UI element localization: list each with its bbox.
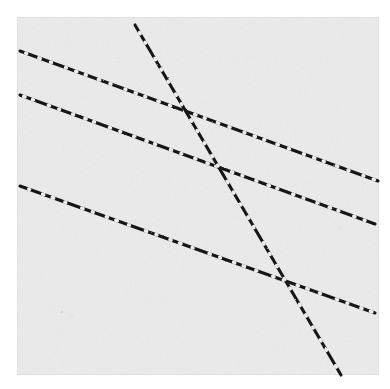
speckle-mark xyxy=(71,315,73,317)
line-drawing-svg xyxy=(0,0,390,389)
speckle-mark xyxy=(339,227,341,229)
speckle-mark xyxy=(61,311,63,313)
speckle-mark xyxy=(251,235,252,236)
speckle-mark xyxy=(117,61,118,62)
figure-canvas xyxy=(0,0,390,389)
